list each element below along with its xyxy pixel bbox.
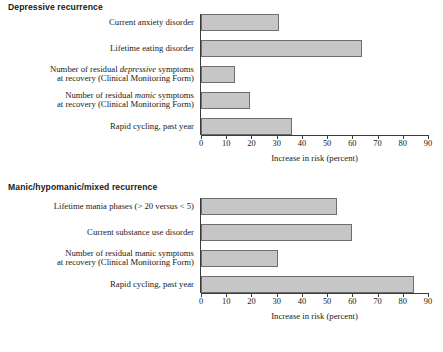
- x-axis-tick-label: 90: [424, 139, 432, 148]
- bar-row: Number of residual manic symptoms at rec…: [0, 250, 443, 267]
- category-label: Number of residual manic symptoms at rec…: [0, 91, 194, 110]
- bar-row: Lifetime eating disorder: [0, 40, 443, 57]
- bar-row: Rapid cycling, past year: [0, 276, 443, 293]
- x-axis-title: Increase in risk (percent): [201, 311, 428, 321]
- x-axis-tick-label: 40: [298, 297, 306, 306]
- bar-row: Lifetime mania phases (> 20 versus < 5): [0, 198, 443, 215]
- x-axis-tick-label: 20: [247, 297, 255, 306]
- bar-row: Rapid cycling, past year: [0, 118, 443, 135]
- x-axis-line: [201, 293, 428, 294]
- category-label: Lifetime mania phases (> 20 versus < 5): [0, 202, 194, 212]
- plot-area-manic: Lifetime mania phases (> 20 versus < 5) …: [0, 198, 443, 308]
- chart-panel-manic-recurrence: Manic/hypomanic/mixed recurrence Lifetim…: [0, 180, 443, 352]
- category-label: Lifetime eating disorder: [0, 44, 194, 54]
- x-axis-tick-label: 20: [247, 139, 255, 148]
- x-axis-tick-label: 80: [399, 139, 407, 148]
- x-axis-tick-label: 10: [222, 297, 230, 306]
- bar-row: Number of residual depressive symptoms a…: [0, 66, 443, 83]
- x-axis-title: Increase in risk (percent): [201, 153, 428, 163]
- y-axis-line: [200, 14, 201, 135]
- x-axis-tick-label: 40: [298, 139, 306, 148]
- bar: [201, 118, 292, 135]
- x-axis-tick-label: 90: [424, 297, 432, 306]
- x-axis-tick-label: 60: [348, 297, 356, 306]
- panel-title-depressive: Depressive recurrence: [8, 2, 103, 12]
- panel-title-manic: Manic/hypomanic/mixed recurrence: [8, 182, 157, 192]
- x-axis-tick-label: 0: [199, 139, 203, 148]
- bar: [201, 198, 337, 215]
- emphasis-manic: manic: [135, 90, 156, 100]
- x-axis-line: [201, 135, 428, 136]
- bar: [201, 224, 352, 241]
- bar: [201, 276, 414, 293]
- y-axis-line: [200, 198, 201, 293]
- chart-panel-depressive-recurrence: Depressive recurrence Current anxiety di…: [0, 0, 443, 180]
- x-axis-tick-label: 70: [373, 139, 381, 148]
- x-axis-tick-label: 10: [222, 139, 230, 148]
- category-label: Rapid cycling, past year: [0, 122, 194, 132]
- x-axis-tick-label: 70: [373, 297, 381, 306]
- category-label: Current substance use disorder: [0, 228, 194, 238]
- category-label: Rapid cycling, past year: [0, 280, 194, 290]
- emphasis-depressive: depressive: [120, 64, 156, 74]
- x-axis-tick-label: 30: [272, 139, 280, 148]
- bar: [201, 66, 235, 83]
- x-axis-tick-label: 0: [199, 297, 203, 306]
- bar-row: Current anxiety disorder: [0, 14, 443, 31]
- category-label: Number of residual depressive symptoms a…: [0, 65, 194, 84]
- bar: [201, 40, 362, 57]
- plot-area-depressive: Current anxiety disorder Lifetime eating…: [0, 14, 443, 144]
- bar-row: Current substance use disorder: [0, 224, 443, 241]
- x-axis-tick-label: 80: [399, 297, 407, 306]
- category-label: Current anxiety disorder: [0, 18, 194, 28]
- bar: [201, 92, 250, 109]
- x-axis-tick-label: 50: [323, 297, 331, 306]
- bar: [201, 250, 278, 267]
- bar: [201, 14, 279, 31]
- x-axis-tick-label: 60: [348, 139, 356, 148]
- x-axis-tick-label: 30: [272, 297, 280, 306]
- bar-row: Number of residual manic symptoms at rec…: [0, 92, 443, 109]
- category-label: Number of residual manic symptoms at rec…: [0, 249, 194, 268]
- x-axis-tick-label: 50: [323, 139, 331, 148]
